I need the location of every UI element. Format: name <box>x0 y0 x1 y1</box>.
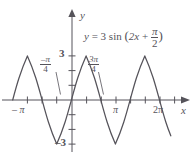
callout-label-neg-pi-over-4: –π4 <box>40 55 51 74</box>
equation-close-paren: ) <box>158 28 162 43</box>
trig-graph-figure <box>0 0 194 160</box>
x-tick-label-pi: π <box>113 105 118 115</box>
y-axis-label: y <box>80 10 85 21</box>
equation-inner-term: 2x <box>129 30 139 42</box>
x-tick-label-2pi: 2π <box>153 105 163 115</box>
callout-label-3pi-over-4: 3π4 <box>88 55 99 74</box>
x-tick-label-neg-pi: – π <box>12 105 25 115</box>
equation-function-name: sin <box>109 30 122 42</box>
y-tick-label-neg3: –3 <box>55 137 66 148</box>
figure-background <box>0 0 194 160</box>
x-axis-label: x <box>181 105 186 116</box>
equation-label: y = 3 sin (2x + π2) <box>84 26 163 49</box>
y-tick-label-3: 3 <box>59 48 65 59</box>
